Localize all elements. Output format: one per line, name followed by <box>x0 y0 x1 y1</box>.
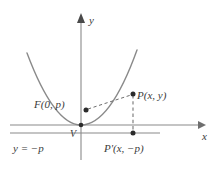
y-axis-label: y <box>88 14 94 26</box>
x-axis-label: x <box>201 130 207 142</box>
focus-label: F(0, p) <box>33 98 65 111</box>
point-p-prime-dot <box>131 131 136 136</box>
vertex-dot <box>79 123 84 128</box>
point-p-prime-label: P'(x, −p) <box>103 142 144 155</box>
directrix-equation-label: y = −p <box>12 142 44 154</box>
figure-canvas: y x F(0, p) P(x, y) P'(x, −p) V y = −p <box>0 0 215 171</box>
point-p-label: P(x, y) <box>136 89 167 102</box>
x-axis-arrowhead-icon <box>198 121 206 129</box>
y-axis-arrowhead-icon <box>77 13 85 23</box>
focus-point-dot <box>84 108 89 113</box>
parabola-figure: y x F(0, p) P(x, y) P'(x, −p) V y = −p <box>0 0 215 171</box>
parabola-curve <box>27 50 137 125</box>
point-p-dot <box>131 92 136 97</box>
